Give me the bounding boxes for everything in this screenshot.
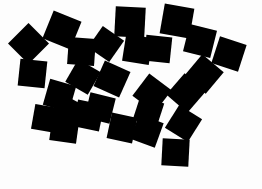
black-square <box>17 58 47 88</box>
black-square <box>161 138 189 166</box>
black-square <box>94 61 131 98</box>
square-scatter-canvas <box>0 0 262 189</box>
black-square <box>7 22 48 63</box>
black-square <box>183 24 217 58</box>
black-square <box>114 6 146 38</box>
black-square <box>144 35 173 64</box>
black-square <box>164 104 201 141</box>
black-square <box>31 104 60 133</box>
